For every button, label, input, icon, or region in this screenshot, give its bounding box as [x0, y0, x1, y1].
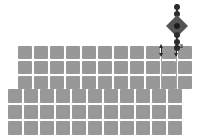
lattice-cell	[34, 61, 48, 74]
lattice-cell	[114, 76, 128, 89]
lattice-cell	[82, 61, 96, 74]
lattice-constant-label: a	[179, 42, 183, 50]
lattice-cell	[130, 76, 144, 89]
lattice-cell	[8, 89, 22, 103]
lattice-cell	[114, 46, 128, 59]
lattice-cell	[168, 89, 182, 103]
lattice-cell	[72, 105, 86, 119]
lattice-cell	[88, 89, 102, 103]
dimension-arrow-right	[176, 45, 177, 56]
lattice-cell	[146, 46, 160, 59]
lattice-cell	[162, 61, 176, 74]
lattice-cell	[34, 76, 48, 89]
lattice-cell	[18, 61, 32, 74]
lattice-cell	[146, 61, 160, 74]
lattice-cell	[162, 76, 176, 89]
lattice-cell	[40, 121, 54, 135]
lattice-cell	[72, 121, 86, 135]
bead-upper-1	[174, 4, 180, 10]
lattice-cell	[8, 121, 22, 135]
lattice-cell	[50, 46, 64, 59]
lattice-cell	[66, 46, 80, 59]
lattice-cell	[104, 105, 118, 119]
lattice-cell	[24, 89, 38, 103]
lattice-cell	[88, 121, 102, 135]
lattice-cell	[120, 105, 134, 119]
lattice-cell	[18, 46, 32, 59]
bead-lower-1	[174, 32, 180, 38]
lattice-cell	[178, 61, 192, 74]
lattice-cell	[66, 76, 80, 89]
upper-lattice-band	[18, 46, 192, 89]
lattice-cell	[82, 46, 96, 59]
lattice-cell	[88, 105, 102, 119]
lattice-cell	[40, 89, 54, 103]
figure-canvas: a	[0, 0, 198, 139]
lattice-cell	[152, 105, 166, 119]
lattice-cell	[56, 105, 70, 119]
column-guide-right	[176, 56, 177, 89]
lattice-cell	[18, 76, 32, 89]
lattice-cell	[98, 46, 112, 59]
column-guide-left	[161, 56, 162, 89]
lattice-cell	[8, 105, 22, 119]
lattice-cell	[146, 76, 160, 89]
lattice-cell	[178, 76, 192, 89]
lattice-cell	[56, 89, 70, 103]
lattice-cell	[104, 121, 118, 135]
lattice-cell	[152, 121, 166, 135]
lattice-cell	[24, 105, 38, 119]
lattice-cell	[24, 121, 38, 135]
lattice-cell	[50, 76, 64, 89]
lattice-cell	[114, 61, 128, 74]
lattice-cell	[104, 89, 118, 103]
lattice-cell	[98, 61, 112, 74]
lattice-cell	[136, 89, 150, 103]
lattice-cell	[136, 121, 150, 135]
lattice-cell	[34, 46, 48, 59]
lattice-cell	[40, 105, 54, 119]
lattice-cell	[82, 76, 96, 89]
lattice-cell	[56, 121, 70, 135]
lattice-cell	[120, 89, 134, 103]
lattice-cell	[72, 89, 86, 103]
lattice-cell	[168, 105, 182, 119]
lattice-cell	[136, 105, 150, 119]
lower-lattice-band	[8, 89, 182, 135]
lattice-cell	[120, 121, 134, 135]
dimension-arrow-left	[161, 45, 162, 56]
lattice-cell	[98, 76, 112, 89]
lattice-cell	[152, 89, 166, 103]
lattice-cell	[66, 61, 80, 74]
lattice-cell	[50, 61, 64, 74]
lattice-cell	[130, 46, 144, 59]
lattice-cell	[130, 61, 144, 74]
diamond-core-icon	[174, 23, 180, 29]
lattice-cell	[168, 121, 182, 135]
